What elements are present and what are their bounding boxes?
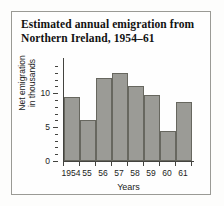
y-axis-minor-tick: [55, 107, 58, 108]
bar: [80, 120, 96, 161]
chart-title: Estimated annual emigration from Norther…: [21, 17, 205, 45]
y-axis-major-tick: [53, 93, 58, 94]
x-axis-tick: [159, 162, 160, 166]
x-axis-tick: [63, 162, 64, 166]
bar: [144, 95, 160, 161]
y-axis-major-tick: [53, 161, 58, 162]
y-axis-minor-tick: [55, 73, 58, 74]
figure: Estimated annual emigration from Norther…: [0, 0, 224, 206]
x-axis-tick: [191, 162, 192, 166]
chart-title-line-1: Estimated annual emigration from: [21, 17, 205, 31]
x-axis-tick-label: 61: [167, 168, 199, 178]
y-axis-minor-tick: [55, 86, 58, 87]
y-axis-title-line-2: in thousands: [27, 43, 37, 123]
bar: [160, 131, 176, 161]
chart-title-line-2: Northern Ireland, 1954–61: [21, 31, 205, 45]
bar: [176, 102, 192, 161]
y-axis-tick-labels: 0510: [42, 58, 58, 162]
bar: [96, 78, 112, 161]
x-axis-title: Years: [63, 182, 194, 192]
y-axis-minor-tick: [55, 120, 58, 121]
x-axis-tick: [111, 162, 112, 166]
y-axis-title-line-1: Net emigration: [17, 43, 27, 123]
bar: [64, 97, 80, 161]
y-axis-tick-label: 0: [45, 157, 50, 165]
bar: [112, 73, 128, 161]
y-axis-minor-tick: [55, 66, 58, 67]
y-axis-tick-label: 5: [45, 123, 50, 131]
x-axis-tick: [127, 162, 128, 166]
x-axis-ticks: [63, 162, 194, 166]
x-axis-tick: [175, 162, 176, 166]
y-axis-minor-tick: [55, 100, 58, 101]
y-axis-tick-label: 10: [41, 89, 50, 97]
bar: [128, 86, 144, 161]
x-axis-tick: [79, 162, 80, 166]
y-axis-major-tick: [53, 127, 58, 128]
y-axis-minor-tick: [55, 147, 58, 148]
y-axis-minor-tick: [55, 114, 58, 115]
y-axis-minor-tick: [55, 154, 58, 155]
y-axis-minor-tick: [55, 80, 58, 81]
x-axis-tick: [95, 162, 96, 166]
y-axis-title: Net emigration in thousands: [17, 43, 39, 123]
y-axis-minor-tick: [55, 134, 58, 135]
x-axis-tick: [143, 162, 144, 166]
y-axis-minor-tick: [55, 141, 58, 142]
x-axis-tick-labels: 195455565758596061: [60, 168, 198, 179]
plot-area: [64, 60, 192, 161]
